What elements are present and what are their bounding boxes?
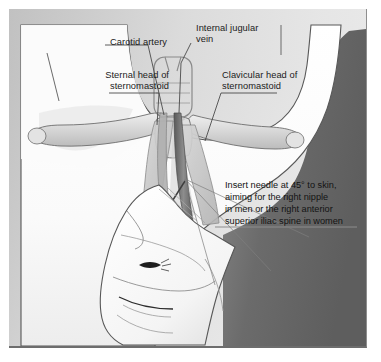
label-carotid-artery: Carotid artery [110, 37, 167, 48]
illustration-panel: Carotid artery Internal jugular vein Ste… [9, 9, 367, 348]
label-sternal-head-of-sternomastoid: Sternal head of sternomastoid [77, 70, 169, 93]
label-clavicular-head-of-sternomastoid: Clavicular head of sternomastoid [222, 70, 297, 93]
anatomy-illustration [9, 9, 366, 346]
figure-root: Carotid artery Internal jugular vein Ste… [0, 0, 381, 362]
thyroid-cartilage-notch [165, 57, 181, 71]
left-clavicle-acromial-end [28, 128, 46, 144]
leader-line-internal-jugular-vein [179, 43, 191, 113]
right-clavicle-acromial-end [286, 132, 304, 148]
instruction-text: Insert needle at 45° to skin, aiming for… [225, 179, 367, 227]
label-internal-jugular-vein: Internal jugular vein [196, 23, 258, 46]
